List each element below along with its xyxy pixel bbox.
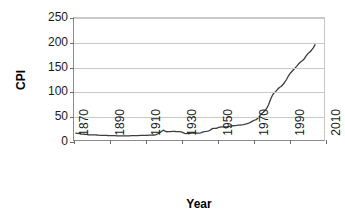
x-tick-label: 1870	[78, 109, 90, 149]
x-tick-label: 1910	[150, 109, 162, 149]
x-tick-label: 1890	[114, 109, 126, 149]
x-axis-tick-labels: 18701890191019301950197019902010	[0, 0, 345, 218]
x-axis-title: Year	[73, 197, 325, 211]
x-tick-label: 1970	[258, 109, 270, 149]
x-tick-label: 1950	[222, 109, 234, 149]
x-tick-label: 1990	[294, 109, 306, 149]
cpi-line-chart: CPI 050100150200250 18701890191019301950…	[0, 0, 345, 218]
x-tick-label: 2010	[330, 109, 342, 149]
x-tick-label: 1930	[186, 109, 198, 149]
